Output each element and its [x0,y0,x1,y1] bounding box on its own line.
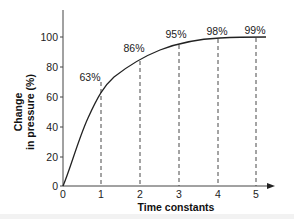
bottom-border-strip [0,214,294,219]
chart-svg: 0 20 40 60 80 100 0 1 2 3 4 5 63% 86% 95… [0,0,294,219]
y-tick-100: 100 [40,31,58,43]
x-axis-arrow-icon [267,183,275,189]
response-curve [63,37,266,186]
annotation-63: 63% [79,71,100,83]
x-tick-3: 3 [176,188,182,200]
annotation-86: 86% [123,42,144,54]
percent-annotations: 63% 86% 95% 98% 99% [79,24,265,83]
x-tick-1: 1 [98,188,104,200]
y-tick-20: 20 [46,151,58,163]
annotation-99: 99% [244,24,265,36]
y-tick-0: 0 [52,180,58,192]
y-axis-title-line1: Change [12,93,24,132]
y-tick-labels: 0 20 40 60 80 100 [40,31,58,192]
y-tick-80: 80 [46,61,58,73]
x-tick-0: 0 [60,188,66,200]
y-axis-title: Change in pressure (%) [12,74,36,150]
y-tick-40: 40 [46,121,58,133]
reference-lines [101,38,256,186]
x-tick-2: 2 [137,188,143,200]
y-tick-60: 60 [46,91,58,103]
x-tick-5: 5 [253,188,259,200]
x-axis-title: Time constants [138,201,215,213]
annotation-95: 95% [165,28,186,40]
y-axis-title-line2: in pressure (%) [24,74,36,150]
x-tick-4: 4 [215,188,221,200]
annotation-98: 98% [206,25,227,37]
exponential-response-chart: 0 20 40 60 80 100 0 1 2 3 4 5 63% 86% 95… [0,0,294,219]
x-tick-labels: 0 1 2 3 4 5 [60,188,259,200]
